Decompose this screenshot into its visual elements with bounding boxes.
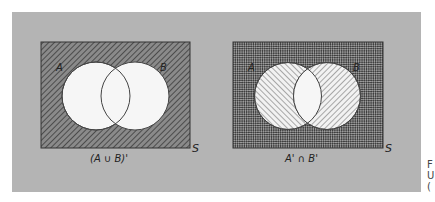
set-a-label: A <box>247 62 255 73</box>
side-text-fragment: U <box>427 171 434 181</box>
set-a-label: A <box>55 62 63 73</box>
side-text-fragment: F <box>427 160 433 170</box>
caption-intersection-of-complements: A' ∩ B' <box>284 153 318 164</box>
caption-complement-of-union: (A ∪ B)' <box>90 153 128 164</box>
set-b-label: B <box>160 62 167 73</box>
set-b-label: B <box>353 62 360 73</box>
universe-label: S <box>385 142 392 155</box>
venn-diagram-complement-of-union <box>41 42 190 148</box>
side-text-fragment: ( <box>427 182 431 192</box>
universe-label: S <box>192 142 199 155</box>
venn-diagram-intersection-of-complements <box>233 42 383 148</box>
venn-diagrams-figure: A B S (A ∪ B)' A B S A' ∩ B' <box>0 0 435 202</box>
set-b-circle <box>101 62 169 130</box>
